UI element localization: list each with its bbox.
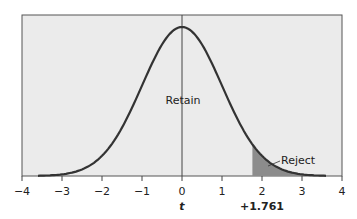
x-axis-title: t <box>179 200 185 213</box>
t-distribution-chart: −4−3−2−101234 Retain Reject t +1.761 <box>0 0 357 219</box>
x-tick-label: 4 <box>339 185 346 198</box>
x-tick-label: −1 <box>134 185 150 198</box>
x-axis-ticks: −4−3−2−101234 <box>14 176 346 198</box>
x-tick-label: 3 <box>299 185 306 198</box>
reject-label: Reject <box>281 154 316 167</box>
x-tick-label: −2 <box>94 185 110 198</box>
critical-value-label: +1.761 <box>240 200 284 213</box>
x-tick-label: 2 <box>259 185 266 198</box>
x-tick-label: 1 <box>219 185 226 198</box>
retain-label: Retain <box>166 94 201 107</box>
x-tick-label: 0 <box>179 185 186 198</box>
x-tick-label: −4 <box>14 185 30 198</box>
x-tick-label: −3 <box>54 185 70 198</box>
